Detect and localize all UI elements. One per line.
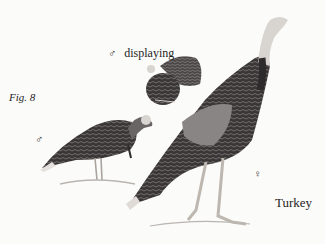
walking-male-turkey xyxy=(40,115,152,184)
displaying-label: displaying xyxy=(124,46,174,60)
figure-label: Fig. 8 xyxy=(9,92,35,103)
figure-title: Turkey xyxy=(275,196,312,209)
walking-male-symbol: ♂ xyxy=(35,134,43,145)
female-symbol: ♀ xyxy=(254,169,262,179)
male-symbol: ♂ xyxy=(108,47,116,59)
displaying-male-caption: ♂displaying xyxy=(108,47,174,59)
displaying-male-turkey xyxy=(146,56,201,105)
illustration-plate: ♂displaying Fig. 8 ♂ ♀ Turkey xyxy=(0,0,325,244)
